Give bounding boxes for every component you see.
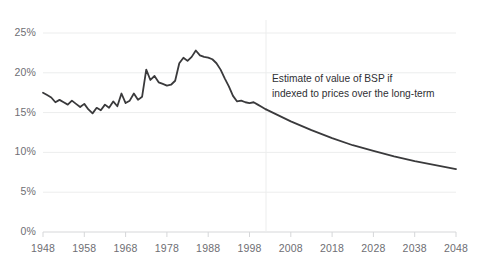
x-axis-label: 1958: [62, 242, 106, 254]
y-axis-label: 20%: [0, 66, 36, 78]
projection-annotation: Estimate of value of BSP if indexed to p…: [272, 72, 458, 101]
y-axis-label: 10%: [0, 145, 36, 157]
series-line: [266, 109, 456, 169]
x-axis-label: 2028: [351, 242, 395, 254]
chart-container: 0%5%10%15%20%25% 19481958196819781988199…: [0, 0, 477, 278]
x-axis-label: 2038: [393, 242, 437, 254]
y-axis-label: 0%: [0, 225, 36, 237]
y-axis-label: 15%: [0, 106, 36, 118]
x-axis-label: 2008: [269, 242, 313, 254]
x-axis-ticks: [43, 232, 456, 237]
x-axis-label: 1948: [21, 242, 65, 254]
y-axis-label: 5%: [0, 185, 36, 197]
y-axis-label: 25%: [0, 26, 36, 38]
x-axis-label: 1988: [186, 242, 230, 254]
data-series-lines: [43, 51, 456, 170]
x-axis-label: 1998: [228, 242, 272, 254]
x-axis-label: 2018: [310, 242, 354, 254]
series-line: [43, 51, 266, 114]
grid-lines: [43, 33, 456, 232]
x-axis-label: 1968: [104, 242, 148, 254]
chart-plot-area: [0, 0, 477, 278]
x-axis-label: 2048: [434, 242, 477, 254]
x-axis-label: 1978: [145, 242, 189, 254]
